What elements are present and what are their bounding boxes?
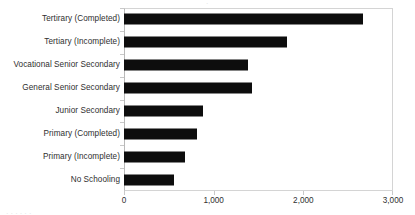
bar [124,37,287,48]
bar [124,83,252,94]
bar-track [124,145,393,168]
bar [124,174,174,185]
category-label: Junior Secondary [55,106,120,116]
bar-row: Tertirary (Completed) [0,8,415,31]
x-axis-tick-label: 0 [122,196,127,206]
bar-chart: · Tertirary (Completed)Tertiary (Incompl… [0,0,415,215]
bar [124,105,203,116]
x-axis-tick-mark [214,191,215,195]
bar-row: Tertiary (Incomplete) [0,31,415,54]
cropped-title-remnant: · [206,0,220,4]
category-label: Primary (Completed) [44,129,120,139]
bar-row: General Senior Secondary [0,77,415,100]
bar [124,14,363,25]
x-axis-tick-label: 2,000 [293,196,314,206]
bar-row: Junior Secondary [0,100,415,123]
x-axis-tick-label: 3,000 [383,196,404,206]
category-label: No Schooling [71,175,120,185]
category-rows: Tertirary (Completed)Tertiary (Incomplet… [0,8,415,191]
bar-track [124,77,393,100]
bar-row: Vocational Senior Secondary [0,54,415,77]
bar-track [124,31,393,54]
bar [124,151,185,162]
bar-track [124,54,393,77]
category-label: Primary (Incomplete) [43,152,120,162]
bar-row: Primary (Completed) [0,122,415,145]
bar-row: No Schooling [0,168,415,191]
bar-track [124,8,393,31]
bar-row: Primary (Incomplete) [0,145,415,168]
bar [124,60,248,71]
x-axis-tick-label: 1,000 [203,196,224,206]
category-label: Tertirary (Completed) [42,14,120,24]
bar [124,128,197,139]
bar-track [124,122,393,145]
x-axis-tick-mark [392,191,393,195]
x-axis-tick-mark [303,191,304,195]
category-label: General Senior Secondary [22,83,120,93]
x-axis-tick-mark [124,191,125,195]
bar-track [124,168,393,191]
cropped-caption-remnant: · · · · · · [6,209,196,215]
category-label: Tertiary (Incomplete) [44,37,120,47]
bar-track [124,100,393,123]
category-label: Vocational Senior Secondary [14,60,121,70]
